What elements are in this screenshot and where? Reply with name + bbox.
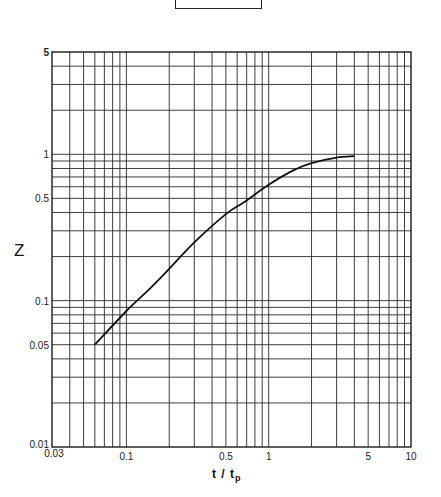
- x-tick-labels: 0.030.10.51510: [44, 448, 417, 462]
- y-tick-label: 5: [43, 47, 49, 58]
- x-axis-subscript: p: [235, 473, 242, 483]
- log-log-chart: 0.030.10.51510 0.010.050.10.515 Z t / tp: [0, 0, 441, 497]
- y-tick-label: 1: [43, 149, 49, 160]
- y-tick-label: 0.01: [30, 439, 50, 450]
- grid-lines: [52, 52, 411, 447]
- x-tick-label: 5: [365, 451, 371, 462]
- x-tick-label: 0.1: [119, 451, 133, 462]
- y-tick-label: 0.5: [35, 193, 49, 204]
- x-tick-label: 0.5: [219, 451, 233, 462]
- data-curve: [95, 156, 355, 345]
- plot-frame: [52, 52, 411, 447]
- x-tick-label: 10: [405, 451, 417, 462]
- x-tick-label: 1: [266, 451, 272, 462]
- y-tick-labels: 0.010.050.10.515: [30, 47, 50, 450]
- y-axis-title: Z: [14, 241, 24, 260]
- y-tick-label: 0.05: [30, 340, 50, 351]
- y-tick-label: 0.1: [35, 296, 49, 307]
- x-axis-title: t / tp: [212, 467, 242, 483]
